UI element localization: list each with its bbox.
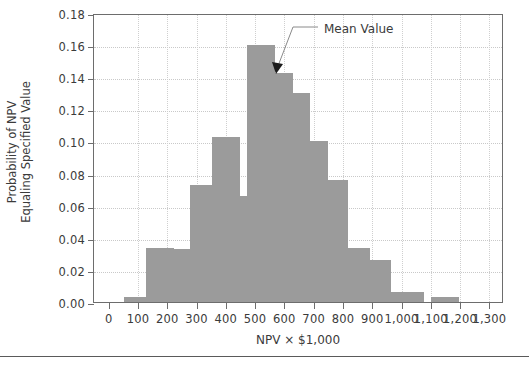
x-axis-tick	[460, 302, 461, 309]
x-axis-title: NPV × $1,000	[93, 333, 503, 347]
y-axis-title-line-2: Equaling Specified Value	[19, 81, 33, 223]
y-axis-tick	[88, 111, 94, 112]
y-axis-tick	[88, 143, 94, 144]
y-axis-tick	[88, 272, 94, 273]
y-axis-tick-label: 0.02	[59, 265, 85, 279]
y-axis-tick-label: 0.14	[59, 72, 85, 86]
y-axis-tick-label: 0.06	[59, 201, 85, 215]
y-axis-tick-label: 0.04	[59, 233, 85, 247]
y-axis-tick	[88, 240, 94, 241]
histogram-figure: Probability of NPV Equaling Specified Va…	[0, 0, 529, 367]
y-axis-tick-label: 0.10	[59, 136, 85, 150]
x-axis-tick-label: 400	[215, 312, 238, 326]
y-axis-tick	[88, 47, 94, 48]
bottom-divider	[0, 356, 529, 357]
x-axis-tick-label: 800	[332, 312, 355, 326]
y-axis-tick-label: 0.18	[59, 8, 85, 22]
y-axis-tick	[88, 79, 94, 80]
x-axis-tick-label: 700	[302, 312, 325, 326]
y-axis-tick-label: 0.08	[59, 169, 85, 183]
x-axis-tick-label: 200	[156, 312, 179, 326]
x-axis-tick-label: 600	[273, 312, 296, 326]
x-axis-tick	[167, 302, 168, 309]
x-axis-tick	[372, 302, 373, 309]
mean-value-annotation-label: Mean Value	[324, 22, 393, 36]
histogram-bar	[431, 297, 459, 302]
x-axis-tick-label: 0	[105, 312, 113, 326]
x-axis-tick	[255, 302, 256, 309]
y-axis-tick	[88, 304, 94, 305]
x-axis-tick	[226, 302, 227, 309]
plot-inner	[94, 15, 502, 302]
x-axis-tick	[138, 302, 139, 309]
x-axis-tick-label: 300	[185, 312, 208, 326]
histogram-bar	[396, 292, 424, 302]
x-axis-tick-label: 100	[127, 312, 150, 326]
x-axis-tick	[402, 302, 403, 309]
x-axis-tick	[284, 302, 285, 309]
y-axis-tick-label: 0.00	[59, 297, 85, 311]
x-axis-tick	[109, 302, 110, 309]
x-axis-tick-label: 900	[361, 312, 384, 326]
x-axis-tick	[431, 302, 432, 309]
bars-layer	[94, 15, 502, 302]
plot-area: 0.000.020.040.060.080.100.120.140.160.18…	[93, 14, 503, 303]
y-axis-tick	[88, 176, 94, 177]
y-axis-tick-label: 0.12	[59, 104, 85, 118]
y-axis-tick	[88, 15, 94, 16]
x-axis-tick	[343, 302, 344, 309]
x-axis-tick-label: 1,300	[472, 312, 506, 326]
y-axis-tick-label: 0.16	[59, 40, 85, 54]
x-axis-tick	[197, 302, 198, 309]
x-axis-tick	[314, 302, 315, 309]
y-axis-title-line-1: Probability of NPV	[5, 101, 19, 204]
y-axis-tick	[88, 208, 94, 209]
x-axis-tick	[489, 302, 490, 309]
x-axis-tick-label: 500	[244, 312, 267, 326]
